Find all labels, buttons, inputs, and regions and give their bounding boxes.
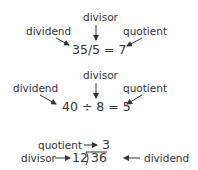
label-divisor-1: divisor xyxy=(83,11,118,23)
label-dividend-2: dividend xyxy=(13,82,58,94)
equation-2: 40 ÷ 8 = 5 xyxy=(62,100,131,114)
label-quotient-2: quotient xyxy=(123,82,167,94)
equation-1: 35/5 = 7 xyxy=(72,43,126,57)
label-divisor-2: divisor xyxy=(83,69,118,81)
dividend-value: 36 xyxy=(91,151,107,165)
dividend-arrow-2 xyxy=(40,95,56,104)
quotient-arrow-1 xyxy=(127,38,142,46)
label-quotient-1: quotient xyxy=(123,25,167,37)
dividend-arrow-1 xyxy=(56,38,69,45)
label-divisor-3: divisor xyxy=(21,152,56,164)
label-dividend-3: dividend xyxy=(144,152,189,164)
label-dividend-1: dividend xyxy=(26,25,71,37)
divisor-value: 12 xyxy=(72,151,88,165)
